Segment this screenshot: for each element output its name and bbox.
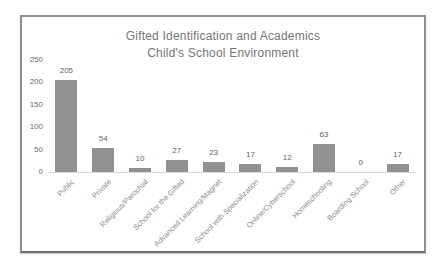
bar-slot: 17School with Specialization [232, 60, 269, 172]
bar-value-label: 0 [359, 158, 363, 167]
y-axis-tick-label: 100 [30, 123, 43, 131]
bar-slot: 63Homeschooling [306, 60, 343, 172]
y-axis-tick-label: 150 [30, 101, 43, 109]
bar [387, 164, 409, 172]
bar-slot: 0Boarding School [342, 60, 379, 172]
y-axis-tick-label: 50 [34, 146, 43, 154]
bar-value-label: 54 [99, 134, 108, 143]
bar [129, 168, 151, 172]
bar-slot: 27School for the Gifted [158, 60, 195, 172]
bar-value-label: 10 [136, 154, 145, 163]
y-axis-tick-label: 200 [30, 78, 43, 86]
x-axis-category-label: School with Specialization [193, 178, 260, 245]
bar [239, 164, 261, 172]
bar-slot: 12Online/Cyberschool [269, 60, 306, 172]
bar [55, 80, 77, 172]
y-axis-tick-label: 250 [30, 56, 43, 64]
bar [276, 167, 298, 172]
bar [313, 144, 335, 172]
bar-slot: 23Advanced Learning/Magnet [195, 60, 232, 172]
chart-title-line1: Gifted Identification and Academics [22, 28, 424, 45]
bar [166, 160, 188, 172]
bar-slot: 205Public [48, 60, 85, 172]
bar-slot: 54Private [85, 60, 122, 172]
x-axis-category-label: Private [91, 178, 113, 200]
plot-area: 050100150200250205Public54Private10Relig… [48, 60, 416, 173]
bar-value-label: 63 [320, 130, 329, 139]
chart-title: Gifted Identification and Academics Chil… [22, 28, 424, 62]
y-axis-tick-label: 0 [39, 168, 43, 176]
bar-slot: 10Religious/Parochial [122, 60, 159, 172]
bar-value-label: 23 [209, 148, 218, 157]
bar [203, 162, 225, 172]
bar-value-label: 205 [60, 66, 73, 75]
x-axis-category-label: Other [388, 178, 407, 197]
bar-value-label: 17 [246, 150, 255, 159]
bar-value-label: 27 [172, 146, 181, 155]
bar [92, 148, 114, 172]
bar-slot: 17Other [379, 60, 416, 172]
bar-value-label: 17 [393, 150, 402, 159]
x-axis-category-label: Advanced Learning/Magnet [153, 178, 224, 249]
x-axis-category-label: Public [56, 178, 76, 198]
x-axis-category-label: Boarding School [326, 178, 371, 223]
chart-figure: Gifted Identification and Academics Chil… [20, 15, 426, 253]
bar-value-label: 12 [283, 153, 292, 162]
